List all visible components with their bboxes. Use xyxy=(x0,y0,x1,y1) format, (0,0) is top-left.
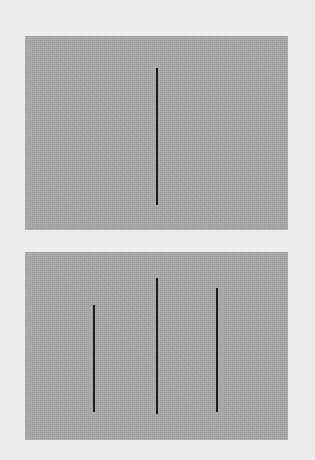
comparison-line-1 xyxy=(93,305,95,412)
reference-panel xyxy=(25,36,288,230)
comparison-line-3 xyxy=(216,288,218,412)
stimulus-canvas xyxy=(0,0,315,460)
reference-line xyxy=(156,68,158,205)
comparison-line-2 xyxy=(156,278,158,414)
comparison-panel xyxy=(25,252,288,440)
